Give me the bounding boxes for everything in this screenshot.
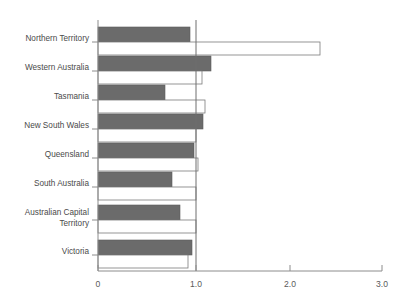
category-label-australian-capital-territory-line1: Australian Capital [25,208,89,217]
category-label-south-australia: South Australia [34,179,90,188]
bar-open-new-south-wales [98,129,196,142]
x-tick-label-3: 3.0 [376,279,388,289]
category-label-new-south-wales: New South Wales [24,121,89,130]
bar-filled-victoria [98,240,192,255]
bar-filled-australian-capital-territory [98,205,180,220]
bar-filled-queensland [98,143,194,158]
bar-open-tasmania [98,100,205,113]
bar-open-queensland [98,158,198,171]
bar-open-northern-territory [98,42,320,55]
bar-open-western-australia [98,71,202,84]
category-label-northern-territory: Northern Territory [25,34,89,43]
bar-filled-northern-territory [98,27,190,42]
bar-filled-tasmania [98,85,165,100]
x-tick-label-0: 0 [96,279,101,289]
chart-canvas: Northern Territory Western Australia Tas… [0,0,401,306]
bar-open-south-australia [98,187,196,200]
x-tick-label-1: 1.0 [190,279,202,289]
bar-filled-western-australia [98,56,211,71]
category-label-tasmania: Tasmania [54,92,89,101]
bar-chart: Northern Territory Western Australia Tas… [0,0,401,306]
x-tick-label-2: 2.0 [284,279,296,289]
bar-open-australian-capital-territory [98,220,196,233]
category-label-australian-capital-territory-line2: Territory [59,219,89,228]
category-label-western-australia: Western Australia [25,63,89,72]
bar-filled-south-australia [98,172,172,187]
category-label-victoria: Victoria [62,247,90,256]
category-label-queensland: Queensland [45,150,90,159]
bar-filled-new-south-wales [98,114,203,129]
bar-open-victoria [98,255,188,268]
